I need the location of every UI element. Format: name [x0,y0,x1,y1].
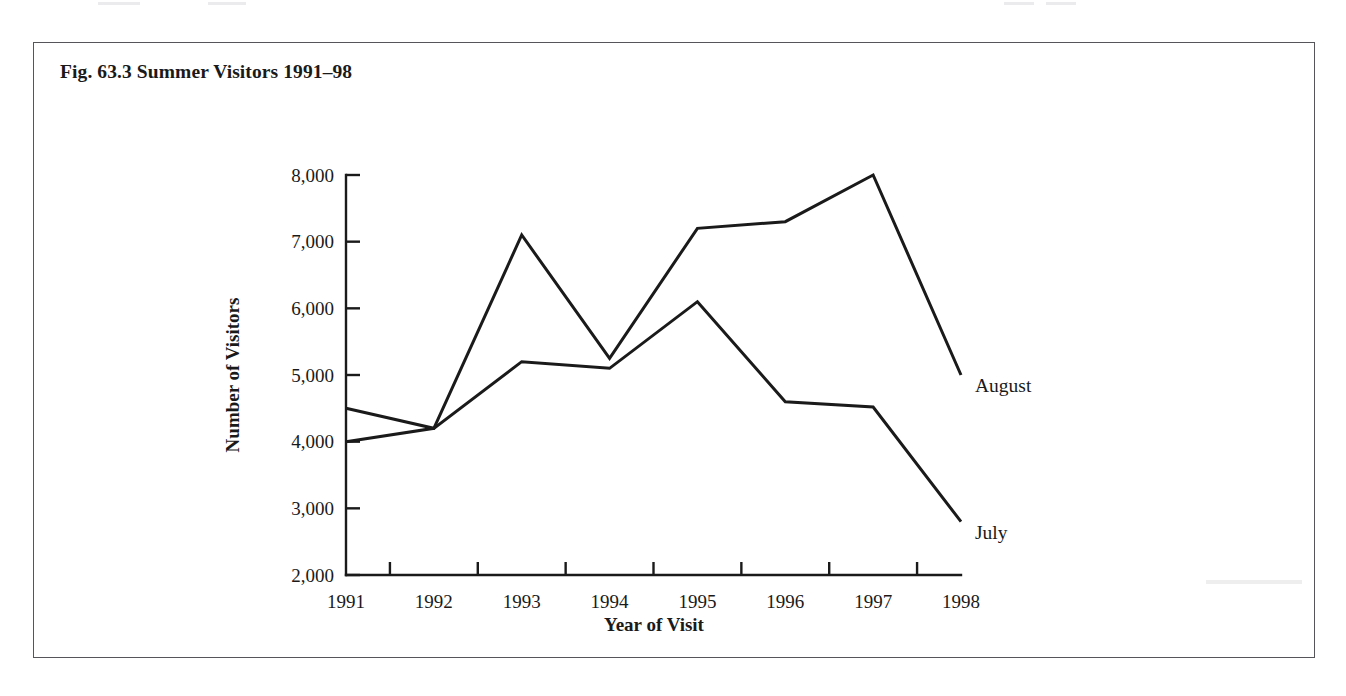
line-chart: 8,0007,0006,0005,0004,0003,0002,000 Numb… [34,43,1316,659]
y-tick-label: 4,000 [291,431,334,452]
x-axis-title: Year of Visit [604,614,705,635]
series-label-august: August [975,375,1032,396]
x-tick-marks [390,562,917,575]
x-tick-label: 1991 [327,591,365,612]
y-axis-title: Number of Visitors [222,298,243,453]
y-tick-label: 3,000 [291,498,334,519]
y-tick-label: 7,000 [291,231,334,252]
y-tick-label: 6,000 [291,298,334,319]
x-axis: 19911992199319941995199619971998 Year of… [327,562,980,635]
y-tick-label: 2,000 [291,565,334,586]
y-tick-label: 8,000 [291,165,334,186]
x-tick-label: 1994 [591,591,630,612]
y-tick-marks [346,175,360,575]
scan-artifact [208,2,246,5]
chart-plot-area: 8,0007,0006,0005,0004,0003,0002,000 Numb… [34,43,1316,659]
y-tick-label: 5,000 [291,365,334,386]
series-label-group: AugustJuly [975,375,1032,543]
x-tick-label: 1992 [415,591,453,612]
scan-artifact [1046,2,1076,5]
x-tick-label: 1998 [942,591,980,612]
scan-artifact [1004,2,1034,5]
series-line-august [346,175,961,442]
x-tick-label: 1997 [854,591,892,612]
x-tick-labels: 19911992199319941995199619971998 [327,591,980,612]
x-tick-label: 1996 [766,591,804,612]
figure-frame: Fig. 63.3 Summer Visitors 1991–98 8,0007… [33,42,1315,658]
data-series-group [346,175,961,522]
scan-artifact [98,2,140,5]
series-label-july: July [975,522,1008,543]
y-axis: 8,0007,0006,0005,0004,0003,0002,000 Numb… [222,165,360,586]
series-line-july [346,302,961,522]
x-tick-label: 1995 [678,591,716,612]
y-tick-labels: 8,0007,0006,0005,0004,0003,0002,000 [291,165,334,586]
x-tick-label: 1993 [503,591,541,612]
